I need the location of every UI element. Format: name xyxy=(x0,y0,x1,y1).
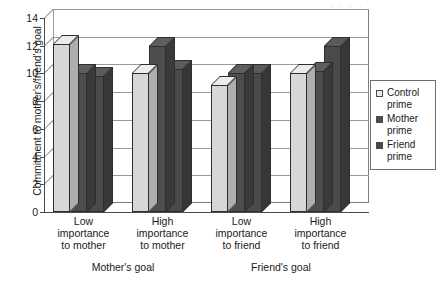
y-tick-mark xyxy=(40,129,45,130)
bar-side-face xyxy=(341,37,350,212)
bar xyxy=(132,73,149,212)
x-axis-category-label: Lowimportanceto mother xyxy=(44,216,123,251)
bar-side-face xyxy=(307,64,316,212)
legend-item-label: Friend prime xyxy=(387,139,415,162)
bar-side-face xyxy=(87,64,96,212)
x-axis-group-label: Friend's goal xyxy=(202,261,360,273)
gridline xyxy=(53,9,369,10)
category-label-line: to mother xyxy=(123,240,202,252)
bar-front-face xyxy=(53,44,70,212)
bar-side-face xyxy=(104,67,113,212)
category-label-line: to mother xyxy=(44,240,123,252)
y-tick-label: 4 xyxy=(32,151,38,163)
category-label-line: to friend xyxy=(202,240,281,252)
legend-item: Control prime xyxy=(376,87,435,110)
category-label-line: importance xyxy=(44,228,123,240)
bar-front-face xyxy=(290,73,307,212)
y-tick-label: 10 xyxy=(26,67,38,79)
legend-item: Friend prime xyxy=(376,139,435,162)
legend-item: Mother prime xyxy=(376,113,435,136)
bar-side-face xyxy=(262,64,271,212)
x-axis-line xyxy=(44,212,369,213)
bar-side-face xyxy=(149,64,158,212)
y-tick-mark xyxy=(40,18,45,19)
bar xyxy=(53,44,70,212)
y-tick-label: 6 xyxy=(32,123,38,135)
bar-chart-figure: · · · · Commitment to mother's/friend's … xyxy=(0,0,447,285)
bar xyxy=(211,85,228,212)
x-axis-category-label: Lowimportanceto friend xyxy=(202,216,281,251)
x-axis-group-label: Mother's goal xyxy=(44,261,202,273)
y-tick-label: 2 xyxy=(32,178,38,190)
y-tick-mark xyxy=(40,212,45,213)
bar xyxy=(290,73,307,212)
y-tick-mark xyxy=(40,46,45,47)
bar-front-face xyxy=(211,85,228,212)
category-label-line: importance xyxy=(123,228,202,240)
y-tick-label: 0 xyxy=(32,206,38,218)
category-label-line: to friend xyxy=(281,240,360,252)
light-gray-swatch-icon xyxy=(376,90,383,97)
bar-side-face xyxy=(183,60,192,212)
x-axis-category-label: Highimportanceto friend xyxy=(281,216,360,251)
bar-side-face xyxy=(245,64,254,212)
x-axis-category-label: Highimportanceto mother xyxy=(123,216,202,251)
plot-area: 02468101214 xyxy=(44,18,360,212)
y-tick-label: 12 xyxy=(26,40,38,52)
category-label-line: importance xyxy=(202,228,281,240)
legend-item-label: Mother prime xyxy=(387,113,418,136)
legend-item-label: Control prime xyxy=(387,87,419,110)
bar-front-face xyxy=(132,73,149,212)
y-tick-mark xyxy=(40,157,45,158)
y-tick-label: 14 xyxy=(26,12,38,24)
y-tick-label: 8 xyxy=(32,95,38,107)
y-tick-mark xyxy=(40,184,45,185)
y-tick-mark xyxy=(40,73,45,74)
bar-side-face xyxy=(166,37,175,212)
chart-legend: Control primeMother primeFriend prime xyxy=(370,80,436,170)
category-label-line: importance xyxy=(281,228,360,240)
dark-gray-swatch-icon xyxy=(376,116,383,123)
y-axis-line xyxy=(44,18,45,212)
bar-side-face xyxy=(228,76,237,212)
y-tick-mark xyxy=(40,101,45,102)
dark-gray-swatch-icon xyxy=(376,142,383,149)
bar-side-face xyxy=(324,62,333,212)
bar-side-face xyxy=(70,35,79,212)
gridline xyxy=(53,37,369,38)
